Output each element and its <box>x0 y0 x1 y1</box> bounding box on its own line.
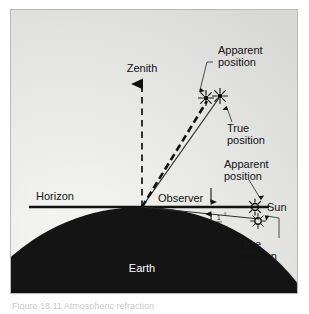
true-position-upper-line1: True <box>227 122 249 134</box>
angle-degree-symbol: ° <box>224 212 227 219</box>
diagram-frame: Earth Horizon Zenith Observer <box>10 9 298 294</box>
true-position-lower-line2: position <box>239 250 277 262</box>
apparent-position-upper-line2: position <box>218 56 256 68</box>
true-position-lower-line1: True <box>239 238 261 250</box>
figure-caption-text: Figure 18.11 Atmospheric refraction <box>12 302 212 310</box>
earth-label: Earth <box>129 262 155 274</box>
figure-page: Earth Horizon Zenith Observer <box>0 0 309 314</box>
angle-denominator: 2 <box>217 223 221 230</box>
apparent-position-lower-line1: Apparent <box>224 158 269 170</box>
horizon-label: Horizon <box>36 190 74 202</box>
zenith-label: Zenith <box>127 62 158 74</box>
true-position-upper-line2: position <box>227 134 265 146</box>
angle-numerator: 1 <box>217 214 221 221</box>
observer-label: Observer <box>158 192 204 204</box>
star-burst-icon-apparent-upper <box>199 91 214 106</box>
figure-caption: Figure 18.11 Atmospheric refraction <box>12 302 212 310</box>
refraction-diagram: Earth Horizon Zenith Observer <box>11 10 297 293</box>
apparent-position-upper-line1: Apparent <box>218 44 263 56</box>
sun-label: Sun <box>267 201 287 213</box>
star-burst-icon-true-upper <box>213 89 228 104</box>
apparent-position-lower-line2: position <box>224 170 262 182</box>
